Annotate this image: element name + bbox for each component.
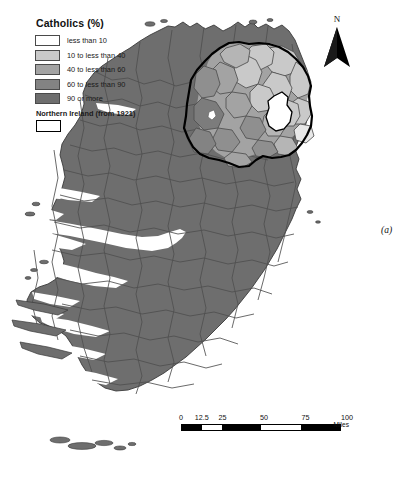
legend-swatch-10-40: [35, 50, 60, 61]
panel-label: (a): [381, 225, 392, 235]
scale-segment: [202, 425, 222, 430]
legend-label-90plus: 90 or more: [67, 94, 103, 103]
legend-swatch-60-90: [35, 79, 60, 90]
legend-label-60-90: 60 to less than 90: [67, 80, 125, 89]
legend-northern-ireland-label: Northern Ireland (from 1921): [36, 109, 185, 118]
north-arrow-icon: [322, 25, 352, 69]
scale-tick-0: 0: [179, 413, 183, 422]
legend-row: 40 to less than 60: [35, 63, 185, 76]
legend-row: less than 10: [35, 34, 185, 47]
scale-tick-12-5: 12.5: [195, 413, 209, 422]
legend-swatch-lt10: [35, 35, 60, 46]
map-legend: Catholics (%) less than 10 10 to less th…: [35, 17, 185, 132]
legend-label-lt10: less than 10: [67, 36, 107, 45]
north-arrow: N: [322, 14, 352, 72]
scale-bar-tick-labels: 0 12.5 25 50 75 100: [181, 413, 347, 424]
scale-segment: [222, 425, 262, 430]
legend-label-40-60: 40 to less than 60: [67, 65, 125, 74]
figure-panel: Catholics (%) less than 10 10 to less th…: [0, 0, 419, 478]
scale-bar-graphic: [181, 424, 341, 431]
legend-swatch-40-60: [35, 64, 60, 75]
scale-bar-units: Miles: [334, 421, 349, 428]
legend-title: Catholics (%): [36, 17, 185, 29]
legend-row: 60 to less than 90: [35, 78, 185, 91]
scale-segment: [261, 425, 301, 430]
north-arrow-label: N: [322, 14, 352, 25]
legend-row: 10 to less than 40: [35, 49, 185, 62]
scale-segment: [182, 425, 202, 430]
legend-label-10-40: 10 to less than 40: [67, 51, 125, 60]
scale-tick-50: 50: [260, 413, 268, 422]
scale-tick-25: 25: [219, 413, 227, 422]
scale-bar: 0 12.5 25 50 75 100 Miles: [181, 413, 347, 431]
legend-row: 90 or more: [35, 92, 185, 105]
legend-swatch-northern-ireland-border: [36, 120, 61, 132]
scale-tick-75: 75: [302, 413, 310, 422]
legend-swatch-90plus: [35, 93, 60, 104]
